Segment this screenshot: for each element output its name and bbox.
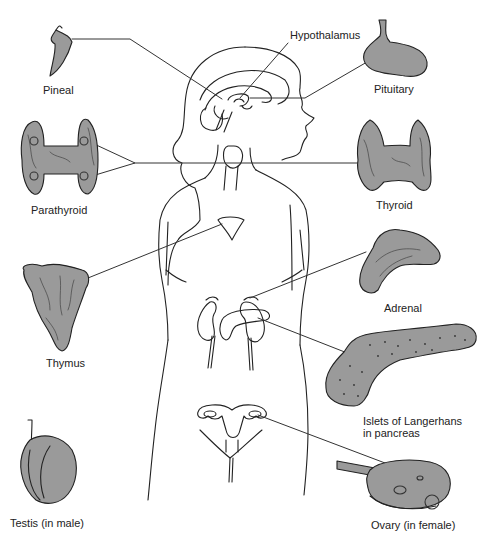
label-pineal: Pineal (43, 84, 74, 96)
thyroid-gland (358, 120, 432, 190)
label-islets-line1: Islets of Langerhans (363, 415, 462, 427)
diagram-artwork (0, 0, 489, 546)
pineal-gland (50, 26, 72, 76)
label-islets-line2: in pancreas (363, 427, 420, 439)
endocrine-diagram: Hypothalamus Pineal Pituitary Parathyroi… (0, 0, 489, 546)
parathyroid-gland (21, 119, 98, 194)
thymus-gland (23, 264, 89, 351)
label-hypothalamus: Hypothalamus (290, 29, 360, 41)
label-adrenal: Adrenal (384, 302, 422, 314)
testis-gland (21, 420, 77, 503)
adrenal-gland (360, 230, 440, 293)
body-outline (148, 47, 314, 500)
ovary-gland (337, 460, 450, 509)
label-testis: Testis (in male) (10, 517, 84, 529)
label-parathyroid: Parathyroid (31, 204, 87, 216)
pituitary-gland (364, 20, 427, 76)
pancreas-gland (326, 324, 477, 406)
label-pituitary: Pituitary (374, 83, 414, 95)
label-thyroid: Thyroid (376, 199, 413, 211)
label-thymus: Thymus (46, 357, 85, 369)
label-ovary: Ovary (in female) (371, 519, 455, 531)
